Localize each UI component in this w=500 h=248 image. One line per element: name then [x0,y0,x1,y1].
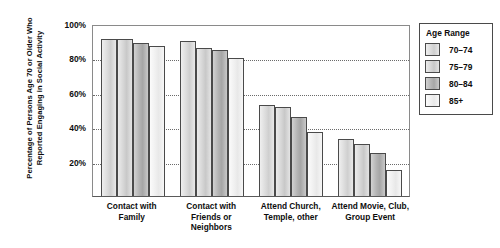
bar[interactable] [354,144,370,196]
bar[interactable] [259,105,275,196]
y-axis-tick-40: 40% [46,123,86,133]
bar[interactable] [307,132,323,196]
y-axis-tick-20: 20% [46,158,86,168]
plot-area [92,25,410,197]
bar[interactable] [228,58,244,196]
bar-group [338,26,402,196]
legend-swatch-icon [425,77,440,90]
bar[interactable] [212,50,228,196]
legend-item-label: 70–74 [449,45,472,55]
bar[interactable] [149,46,165,196]
bar-group [259,26,323,196]
bar[interactable] [386,170,402,196]
legend-swatch-icon [425,43,440,56]
bar[interactable] [180,41,196,196]
bar[interactable] [196,48,212,196]
y-axis-tick-60: 60% [46,89,86,99]
legend-item-label: 75–79 [449,62,472,72]
legend-swatch-icon [425,60,440,73]
y-axis-tick-100: 100% [46,20,86,30]
legend-items: 70–7475–7980–8485+ [425,41,487,109]
bar-group [101,26,165,196]
legend-item[interactable]: 80–84 [425,75,487,92]
bar[interactable] [275,107,291,196]
bar[interactable] [291,117,307,196]
bar[interactable] [101,39,117,196]
y-axis-tick-80: 80% [46,54,86,64]
x-axis-label: Attend Movie, Club, Group Event [331,201,409,247]
legend-item[interactable]: 85+ [425,92,487,109]
legend-item-label: 80–84 [449,79,472,89]
legend: Age Range 70–7475–7980–8485+ [419,23,493,115]
legend-item-label: 85+ [449,96,463,106]
legend-swatch-icon [425,94,440,107]
y-axis-tick-labels: 20%40%60%80%100% [46,19,86,204]
bar-group [180,26,244,196]
bar[interactable] [133,43,149,196]
legend-item[interactable]: 75–79 [425,58,487,75]
bar[interactable] [370,153,386,196]
x-axis-label: Contact with Friends or Neighbors [172,201,250,247]
bar-groups [93,26,409,196]
x-axis-label: Contact with Family [93,201,171,247]
bar[interactable] [338,139,354,196]
bar-chart: Percentage of Persons Age 70 or Older Wh… [0,0,500,248]
bar[interactable] [117,39,133,196]
x-axis-category-labels: Contact with FamilyContact with Friends … [92,201,410,247]
legend-title: Age Range [425,28,487,38]
x-axis-label: Attend Church, Temple, other [252,201,330,247]
legend-item[interactable]: 70–74 [425,41,487,58]
